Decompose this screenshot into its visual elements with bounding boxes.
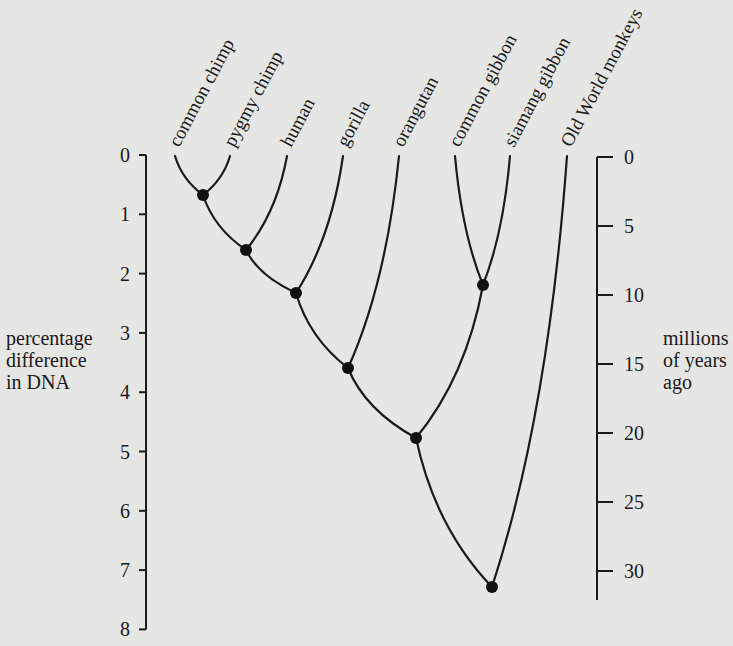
branch [296, 156, 343, 293]
branch [203, 195, 246, 250]
branch [348, 156, 399, 368]
node-great-apes [342, 362, 354, 374]
left-axis-title: percentage difference in DNA [6, 327, 93, 393]
taxon-label: gorilla [332, 96, 374, 150]
tree-nodes [197, 189, 498, 593]
left-axis-title-line: percentage [6, 327, 93, 349]
taxon-label: Old World monkeys [556, 5, 647, 150]
left-axis-title-line: difference [6, 349, 93, 371]
right-axis: 051015202530 [597, 146, 644, 600]
node-gibbons [477, 279, 489, 291]
node-chimps [197, 189, 209, 201]
branch [492, 156, 567, 587]
left-tick-label: 3 [120, 322, 130, 344]
right-tick-label: 20 [624, 422, 644, 444]
left-axis-title-line: in DNA [6, 371, 93, 393]
taxon-label: orangutan [388, 72, 442, 149]
branch [483, 156, 510, 285]
node-african-apes [290, 287, 302, 299]
branch [455, 156, 483, 285]
tree-branches [175, 156, 567, 587]
right-tick-label: 10 [624, 284, 644, 306]
taxon-label: human [276, 94, 319, 150]
branch [246, 156, 287, 250]
left-axis: 012345678 [120, 144, 146, 640]
left-tick-label: 8 [120, 618, 130, 640]
left-tick-label: 1 [120, 203, 130, 225]
left-tick-label: 4 [120, 381, 130, 403]
left-tick-label: 6 [120, 500, 130, 522]
branch [416, 285, 483, 438]
phylogenetic-tree: 012345678 051015202530 common chimppygmy… [0, 0, 733, 646]
left-tick-label: 0 [120, 144, 130, 166]
right-tick-label: 5 [624, 215, 634, 237]
branch [246, 250, 296, 293]
right-tick-label: 30 [624, 560, 644, 582]
right-tick-label: 0 [624, 146, 634, 168]
branch [348, 368, 416, 438]
node-root [486, 581, 498, 593]
right-axis-title: millions of years ago [663, 327, 729, 393]
branch [203, 156, 230, 195]
right-axis-title-line: of years [663, 349, 729, 371]
node-hominoids [410, 432, 422, 444]
right-tick-label: 15 [624, 353, 644, 375]
left-tick-label: 5 [120, 441, 130, 463]
right-tick-label: 25 [624, 491, 644, 513]
node-chimps-human [240, 244, 252, 256]
right-axis-title-line: millions [663, 327, 729, 349]
right-axis-title-line: ago [663, 371, 729, 393]
left-tick-label: 7 [120, 559, 130, 581]
taxon-labels: common chimppygmy chimphumangorillaorang… [164, 5, 647, 150]
branch [175, 156, 203, 195]
taxon-label: pygmy chimp [219, 47, 287, 150]
branch [416, 438, 492, 587]
left-tick-label: 2 [120, 263, 130, 285]
branch [296, 293, 348, 368]
